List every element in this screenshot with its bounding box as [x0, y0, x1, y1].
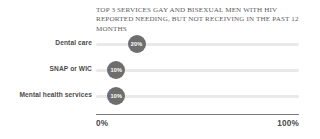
chart-container: TOP 3 SERVICES GAY AND BISEXUAL MEN WITH… — [0, 0, 320, 139]
category-label-mental-health-services: Mental health services — [19, 91, 92, 98]
chart-row: SNAP or WIC 10% — [0, 61, 320, 79]
data-point-dental-care: 20% — [128, 35, 146, 53]
plot-area: Dental care 20% SNAP or WIC 10% Mental h… — [0, 28, 320, 113]
x-axis-tick-min: 0% — [96, 119, 108, 128]
x-axis-tick-max: 100% — [277, 119, 299, 128]
category-label-snap-or-wic: SNAP or WIC — [50, 65, 92, 72]
chart-row: Dental care 20% — [0, 35, 320, 53]
x-axis-line — [96, 114, 299, 115]
category-label-dental-care: Dental care — [55, 39, 92, 46]
value-track: 20% — [96, 43, 299, 46]
value-track: 10% — [96, 69, 299, 72]
data-point-snap-or-wic: 10% — [107, 61, 125, 79]
value-track: 10% — [96, 95, 299, 98]
data-point-mental-health-services: 10% — [107, 87, 125, 105]
chart-row: Mental health services 10% — [0, 87, 320, 105]
